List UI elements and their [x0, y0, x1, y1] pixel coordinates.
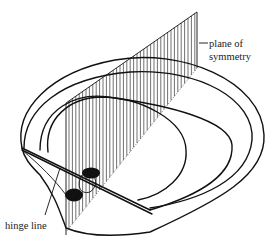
middle-shell-rim	[24, 72, 252, 208]
plane-label-line2: symmetry	[209, 51, 252, 62]
plane-hatching	[69, 14, 195, 229]
hinge-line-label: hinge line	[5, 220, 47, 231]
bivalve-symmetry-diagram: plane of symmetry hinge line	[0, 0, 269, 245]
plane-label-line1: plane of	[209, 38, 244, 49]
upper-ligament-blob	[82, 168, 100, 179]
hinge-wedge	[22, 150, 66, 195]
lower-ligament-blob	[65, 189, 83, 202]
hinge-line-lower	[22, 150, 152, 214]
